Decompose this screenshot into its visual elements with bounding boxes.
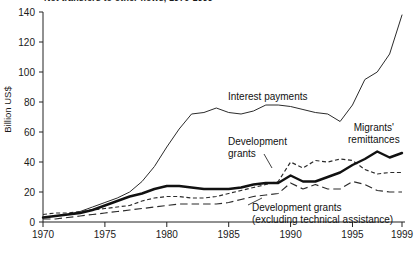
annotation-grantsx-line2: (excluding technical assistance)	[252, 214, 393, 226]
chart-axes	[43, 12, 405, 222]
y-tick-label: 0	[29, 217, 35, 228]
x-tick-label: 1970	[32, 229, 55, 240]
annotation-development-grants: Development grants	[228, 136, 287, 159]
y-tick-label: 60	[24, 127, 36, 138]
x-tick-label: 1975	[94, 229, 117, 240]
annotation-interest-text: Interest payments	[228, 91, 307, 102]
x-tick-label: 1990	[279, 229, 302, 240]
x-tick-label: 1985	[218, 229, 241, 240]
annotation-interest-payments: Interest payments	[228, 91, 307, 103]
y-tick-label: 120	[18, 37, 35, 48]
y-tick-label: 80	[24, 97, 36, 108]
chart-figure: Net transfers to other flows, 1970-1999 …	[0, 0, 415, 253]
chart-series-group	[43, 15, 402, 219]
y-tick-label: 140	[18, 7, 35, 18]
series-line-interest-payments	[43, 15, 402, 218]
x-tick-label: 1999	[391, 229, 414, 240]
x-tick-label: 1995	[341, 229, 364, 240]
annotation-grantsx-line1: Development grants	[252, 202, 393, 214]
y-tick-label: 40	[24, 157, 36, 168]
annotation-migrants-remittances: Migrants' remittances	[348, 122, 400, 145]
annotation-remit-line1: Migrants'	[348, 122, 400, 134]
annotation-grants-line2: grants	[228, 148, 287, 160]
annotation-development-grants-excl: Development grants (excluding technical …	[252, 202, 393, 225]
y-tick-label: 20	[24, 187, 36, 198]
annotation-remit-line2: remittances	[348, 134, 400, 146]
y-axis-ticks: 020406080100120140	[18, 7, 43, 228]
x-tick-label: 1980	[156, 229, 179, 240]
y-tick-label: 100	[18, 67, 35, 78]
annotation-grants-line1: Development	[228, 136, 287, 148]
